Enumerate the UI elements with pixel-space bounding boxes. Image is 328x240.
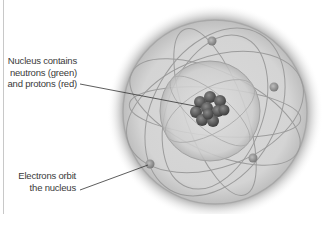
electron-label-line-1: Electrons orbit [18, 170, 76, 182]
nucleus-label-line-2: neutrons (green) [8, 67, 77, 79]
nucleus-label-line-1: Nucleus contains [8, 55, 77, 67]
electron-callout-label: Electrons orbit the nucleus [18, 170, 76, 193]
electron-label-line-2: the nucleus [18, 182, 76, 194]
nucleus-callout-label: Nucleus contains neutrons (green) and pr… [8, 55, 77, 90]
nucleus-label-line-3: and protons (red) [8, 78, 77, 90]
